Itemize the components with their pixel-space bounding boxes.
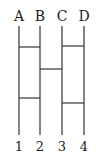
top-label-a: A: [13, 8, 25, 24]
bottom-label-3: 3: [58, 139, 66, 154]
top-label-d: D: [78, 8, 89, 24]
top-label-b: B: [35, 8, 45, 24]
bottom-label-1: 1: [15, 139, 23, 154]
bottom-label-2: 2: [36, 139, 44, 154]
ladder-diagram: ABCD 1234: [0, 0, 99, 156]
bottom-label-4: 4: [80, 139, 88, 154]
top-label-c: C: [57, 8, 68, 24]
